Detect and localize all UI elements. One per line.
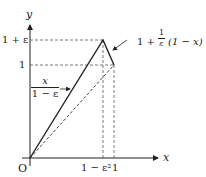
y-tick-1: 1 [19,60,25,70]
x-tick-1: 1 [112,163,118,173]
piecewise-function [30,40,114,158]
left-line-denominator: 1 − ε [31,88,59,99]
y-axis-label: y [26,9,32,20]
right-line-prefix: 1 + [137,36,155,47]
x-axis-label: x [163,152,169,163]
x-tick-1-minus-eps2: 1 − ε² [81,163,111,173]
y-tick-1-plus-eps: 1 + ε [2,35,28,45]
arrow-right-annotation [113,40,127,50]
left-line-label: x 1 − ε [31,76,59,99]
right-line-fraction: 1 ε [158,29,165,48]
left-line-numerator: x [31,76,59,87]
origin-label: O [18,163,27,174]
diagram: y x O 1 + ε 1 1 − ε² 1 x 1 − ε 1 + 1 ε (… [0,0,206,177]
right-line-suffix: (1 − x) [168,36,203,47]
